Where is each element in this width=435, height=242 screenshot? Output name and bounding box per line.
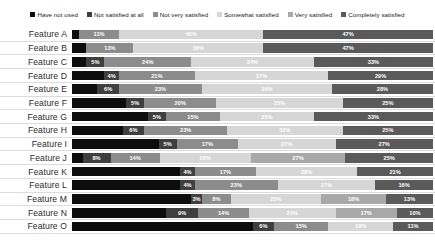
bar-segment[interactable]: 18%: [328, 222, 393, 232]
chart-row: Feature E6%23%36%28%: [0, 83, 435, 97]
bar-segment-value-label: 15%: [187, 114, 198, 120]
bar-segment[interactable]: 32%: [227, 126, 343, 136]
bar-segment[interactable]: 4%: [104, 71, 118, 81]
bar-segment[interactable]: 24%: [249, 208, 336, 218]
bar-segment[interactable]: [72, 84, 97, 94]
bar-segment[interactable]: 18%: [321, 194, 386, 204]
bar-segment[interactable]: 13%: [86, 43, 133, 53]
bar-segment[interactable]: 23%: [119, 84, 202, 94]
bar-segment[interactable]: [72, 153, 83, 163]
bar-segment[interactable]: 47%: [263, 30, 433, 40]
bar-segment[interactable]: 36%: [133, 43, 263, 53]
bar-segment-value-label: 29%: [375, 73, 386, 79]
bar-segment[interactable]: 26%: [220, 112, 314, 122]
bar-segment[interactable]: 4%: [180, 167, 194, 177]
legend-item[interactable]: Have not used: [30, 11, 78, 18]
bar-segment[interactable]: 33%: [314, 57, 433, 67]
bar-segment[interactable]: 6%: [97, 84, 119, 94]
bar-segment[interactable]: 17%: [336, 208, 397, 218]
legend-item-label: Not very satisfied: [160, 11, 208, 18]
chart-row: Feature M3%8%25%18%13%: [0, 193, 435, 207]
bar-segment[interactable]: 21%: [119, 71, 195, 81]
bar-segment[interactable]: 25%: [231, 194, 321, 204]
legend-item[interactable]: Not very satisfied: [153, 11, 208, 18]
bar-segment[interactable]: 17%: [177, 139, 238, 149]
bar-segment[interactable]: [72, 208, 166, 218]
bar-segment[interactable]: 27%: [336, 139, 433, 149]
bar-segment[interactable]: 23%: [144, 126, 227, 136]
bar-segment[interactable]: [72, 167, 180, 177]
legend-item[interactable]: Somewhat satisfied: [217, 11, 279, 18]
bar-segment[interactable]: 21%: [357, 167, 433, 177]
bar-segment-value-label: 28%: [301, 169, 312, 175]
bar-segment[interactable]: 40%: [119, 30, 263, 40]
bar-segment[interactable]: [72, 112, 148, 122]
bar-segment[interactable]: 6%: [123, 126, 145, 136]
bar-segment[interactable]: [72, 126, 123, 136]
bar-segment[interactable]: 27%: [278, 180, 375, 190]
bar-segment[interactable]: 36%: [202, 84, 332, 94]
bar-segment[interactable]: 14%: [111, 153, 160, 163]
bar-segment[interactable]: 23%: [195, 180, 278, 190]
bar-segment[interactable]: 6%: [253, 222, 275, 232]
legend-item[interactable]: Very satisfied: [288, 11, 333, 18]
bar-segment[interactable]: 35%: [216, 98, 342, 108]
bar-segment[interactable]: 17%: [195, 167, 256, 177]
bar-segment[interactable]: 8%: [83, 153, 111, 163]
bar-segment[interactable]: 5%: [86, 57, 104, 67]
bar-segment[interactable]: [72, 180, 180, 190]
bar-segment-value-label: 13%: [104, 45, 115, 51]
row-category-label: Feature E: [0, 84, 72, 94]
bar-segment[interactable]: 3%: [191, 194, 202, 204]
legend-item[interactable]: Completely satisfied: [341, 11, 404, 18]
bar-segment[interactable]: 47%: [263, 43, 433, 53]
bar-segment[interactable]: 37%: [195, 71, 329, 81]
bar-segment[interactable]: [72, 98, 126, 108]
bar-segment[interactable]: 13%: [386, 194, 433, 204]
stacked-bar: 6%23%36%28%: [72, 84, 433, 94]
bar-segment[interactable]: 9%: [166, 208, 198, 218]
bar-segment-value-label: 6%: [259, 223, 267, 229]
bar-segment[interactable]: 25%: [343, 126, 433, 136]
bar-segment[interactable]: [72, 71, 104, 81]
bar-segment[interactable]: 14%: [198, 208, 249, 218]
chart-row: Feature F5%20%35%25%: [0, 97, 435, 111]
bar-segment[interactable]: 11%: [79, 30, 119, 40]
bar-segment[interactable]: 28%: [332, 84, 433, 94]
bar-segment[interactable]: 27%: [238, 139, 335, 149]
bar-segment[interactable]: 5%: [126, 98, 144, 108]
bar-segment[interactable]: 10%: [397, 208, 433, 218]
bar-segment[interactable]: 33%: [314, 112, 433, 122]
bar-segment-value-label: 6%: [104, 86, 112, 92]
bar-segment[interactable]: 28%: [256, 167, 357, 177]
bar-segment[interactable]: 15%: [274, 222, 328, 232]
bar-segment[interactable]: [72, 194, 191, 204]
bar-segment[interactable]: 25%: [345, 153, 433, 163]
bar-segment[interactable]: 5%: [159, 139, 177, 149]
bar-segment[interactable]: 15%: [166, 112, 220, 122]
bar-segment-value-label: 33%: [368, 114, 379, 120]
chart-row: Feature O6%15%18%11%: [0, 220, 435, 234]
bar-segment[interactable]: [72, 139, 159, 149]
stacked-bar: 6%23%32%25%: [72, 126, 433, 136]
bar-segment[interactable]: 24%: [104, 57, 191, 67]
bar-segment[interactable]: 4%: [180, 180, 194, 190]
bar-segment[interactable]: 25%: [343, 98, 433, 108]
bar-segment-value-label: 15%: [296, 223, 307, 229]
bar-segment[interactable]: 16%: [375, 180, 433, 190]
bar-segment[interactable]: [72, 57, 86, 67]
bar-segment[interactable]: 5%: [148, 112, 166, 122]
bar-segment[interactable]: 20%: [144, 98, 216, 108]
bar-segment[interactable]: 34%: [191, 57, 314, 67]
bar-segment-value-label: 17%: [361, 210, 372, 216]
bar-segment[interactable]: [72, 30, 79, 40]
bar-segment[interactable]: 29%: [328, 71, 433, 81]
bar-segment[interactable]: 8%: [202, 194, 231, 204]
bar-segment[interactable]: 26%: [160, 153, 251, 163]
bar-segment[interactable]: 11%: [393, 222, 433, 232]
bar-segment[interactable]: 27%: [251, 153, 346, 163]
bar-segment[interactable]: [72, 222, 253, 232]
bar-segment[interactable]: [72, 43, 86, 53]
legend-item[interactable]: Not satisfied at all: [87, 11, 144, 18]
bar-segment-value-label: 4%: [183, 182, 191, 188]
